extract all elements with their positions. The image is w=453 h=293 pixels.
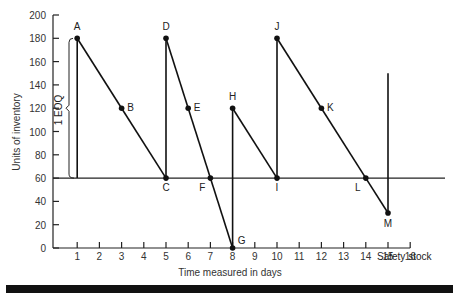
inventory-segment <box>122 108 166 178</box>
point-label: A <box>74 21 81 32</box>
point-label: E <box>194 102 201 113</box>
eoq-label: 1 EOQ <box>53 95 64 126</box>
y-tick-label: 80 <box>35 150 47 161</box>
inventory-segment <box>277 38 321 108</box>
x-tick-label: 8 <box>230 251 236 262</box>
point-label: C <box>162 182 169 193</box>
point-m <box>385 210 391 216</box>
point-h <box>230 105 236 111</box>
point-label: J <box>275 21 280 32</box>
x-tick-label: 3 <box>119 251 125 262</box>
inventory-lines <box>77 38 388 248</box>
x-tick-label: 5 <box>163 251 169 262</box>
point-a <box>74 36 80 42</box>
point-label: K <box>327 102 334 113</box>
axes: 0204060801001201401601802001234567891011… <box>29 10 445 262</box>
x-tick-label: 10 <box>271 251 283 262</box>
inventory-segment <box>210 178 232 248</box>
y-tick-label: 180 <box>29 33 46 44</box>
x-tick-label: 11 <box>294 251 305 262</box>
x-tick-label: 1 <box>74 251 80 262</box>
point-k <box>319 105 325 111</box>
point-label: D <box>162 21 169 32</box>
point-b <box>119 105 125 111</box>
inventory-segment <box>366 178 388 213</box>
point-d <box>163 36 169 42</box>
x-tick-label: 2 <box>97 251 103 262</box>
y-tick-label: 40 <box>35 196 47 207</box>
y-tick-label: 60 <box>35 173 47 184</box>
eoq-brace <box>66 38 74 178</box>
point-label: B <box>127 102 134 113</box>
inventory-chart: 0204060801001201401601802001234567891011… <box>0 0 453 293</box>
point-l <box>363 175 369 181</box>
inventory-segment <box>321 108 365 178</box>
y-tick-label: 0 <box>40 243 46 254</box>
point-label: H <box>229 91 236 102</box>
y-tick-label: 120 <box>29 103 46 114</box>
point-label: G <box>238 235 246 246</box>
x-tick-label: 4 <box>141 251 147 262</box>
point-j <box>274 36 280 42</box>
y-tick-label: 20 <box>35 220 47 231</box>
y-tick-label: 100 <box>29 127 46 138</box>
x-axis-title: Time measured in days <box>178 267 282 278</box>
inventory-segment <box>77 38 121 108</box>
brace-path <box>66 38 74 178</box>
point-label: I <box>276 182 279 193</box>
x-tick-label: 9 <box>252 251 258 262</box>
inventory-segment <box>166 38 188 108</box>
y-tick-label: 140 <box>29 80 46 91</box>
x-tick-label: 14 <box>360 251 372 262</box>
y-tick-label: 160 <box>29 57 46 68</box>
safety-stock-label: Safety stock <box>377 251 432 262</box>
point-label: L <box>355 182 361 193</box>
inventory-segment <box>188 108 210 178</box>
y-axis-title: Units of inventory <box>11 93 22 170</box>
point-g <box>230 245 236 251</box>
inventory-segment <box>233 108 277 178</box>
point-label: F <box>199 182 205 193</box>
point-c <box>163 175 169 181</box>
x-tick-label: 13 <box>338 251 350 262</box>
point-i <box>274 175 280 181</box>
point-f <box>208 175 214 181</box>
point-e <box>185 105 191 111</box>
point-label: M <box>384 218 392 229</box>
x-tick-label: 7 <box>208 251 214 262</box>
bottom-border-bar <box>6 285 453 293</box>
x-tick-label: 12 <box>316 251 328 262</box>
y-tick-label: 200 <box>29 10 46 21</box>
x-tick-label: 6 <box>185 251 191 262</box>
